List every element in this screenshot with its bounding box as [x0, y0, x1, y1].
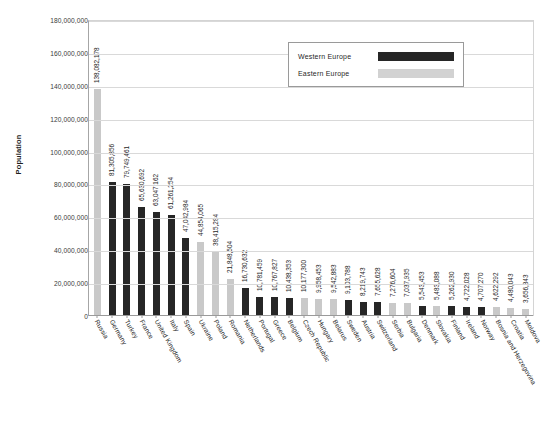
- bar[interactable]: [197, 242, 204, 316]
- bar-value-label: 16,730,632: [241, 250, 248, 282]
- bar-value-label: 8,219,743: [359, 267, 366, 295]
- bar-value-label: 61,261,254: [167, 177, 174, 209]
- category-slot: Norway: [475, 318, 490, 430]
- bar-slot: 79,749,461: [120, 21, 135, 315]
- category-slot: Russia: [89, 318, 104, 430]
- category-slot: Serbia: [386, 318, 401, 430]
- category-slot: Moldova: [519, 318, 534, 430]
- legend-swatch-eastern-europe: [378, 69, 454, 78]
- bar[interactable]: [138, 207, 145, 315]
- bar[interactable]: [493, 307, 500, 315]
- bar-value-label: 10,781,459: [256, 259, 263, 291]
- y-tick-label: 120,000,000: [14, 115, 88, 122]
- category-slot: United Kingdom: [148, 318, 163, 430]
- gridline: [89, 153, 533, 154]
- category-slot: Ukraine: [193, 318, 208, 430]
- bar[interactable]: [463, 307, 470, 315]
- bar-value-label: 9,103,788: [345, 266, 352, 294]
- category-slot: Portugal: [252, 318, 267, 430]
- bar[interactable]: [286, 298, 293, 315]
- category-slot: Turkey: [119, 318, 134, 430]
- bar-value-label: 4,480,043: [507, 273, 514, 301]
- bar[interactable]: [109, 182, 116, 315]
- legend-label-eastern-europe: Eastern Europe: [298, 70, 349, 77]
- bar[interactable]: [507, 308, 514, 315]
- bar-slot: 63,047,162: [149, 21, 164, 315]
- bar-value-label: 4,707,270: [477, 273, 484, 301]
- bar-value-label: 5,483,088: [433, 272, 440, 300]
- x-axis-label: Moldova: [524, 318, 543, 344]
- category-slot: Belgium: [282, 318, 297, 430]
- bar[interactable]: [330, 299, 337, 315]
- bar[interactable]: [315, 299, 322, 315]
- legend-item-western-europe[interactable]: Western Europe: [298, 48, 454, 65]
- category-slot: Spain: [178, 318, 193, 430]
- bar-value-label: 3,656,843: [522, 275, 529, 303]
- bar[interactable]: [271, 297, 278, 315]
- bar[interactable]: [168, 215, 175, 315]
- category-slot: Croatia: [504, 318, 519, 430]
- chart-legend: Western Europe Eastern Europe: [288, 42, 464, 87]
- bar-slot: 4,707,270: [474, 21, 489, 315]
- bar[interactable]: [374, 302, 381, 315]
- category-slot: Bulgaria: [400, 318, 415, 430]
- y-tick-label: 140,000,000: [14, 82, 88, 89]
- bar-slot: 10,767,827: [267, 21, 282, 315]
- bar-value-label: 5,543,453: [418, 271, 425, 299]
- bar[interactable]: [478, 307, 485, 315]
- bar-value-label: 5,262,930: [448, 272, 455, 300]
- bar-slot: 10,781,459: [252, 21, 267, 315]
- category-slot: Switzerland: [371, 318, 386, 430]
- gridline: [89, 21, 533, 22]
- y-tick-label: 160,000,000: [14, 49, 88, 56]
- category-slot: Slovakia: [430, 318, 445, 430]
- bar-slot: 4,480,043: [503, 21, 518, 315]
- bar-value-label: 7,655,628: [374, 268, 381, 296]
- gridline: [89, 218, 533, 219]
- bar-slot: 3,656,843: [518, 21, 533, 315]
- category-slot: Bosnia and Herzegovina: [489, 318, 504, 430]
- bar-value-label: 9,542,883: [330, 265, 337, 293]
- bar[interactable]: [345, 300, 352, 315]
- bar[interactable]: [182, 238, 189, 315]
- x-axis-category-labels: RussiaGermanyTurkeyFranceUnited KingdomI…: [89, 318, 534, 430]
- legend-label-western-europe: Western Europe: [298, 53, 351, 60]
- category-slot: Italy: [163, 318, 178, 430]
- category-slot: Sweden: [341, 318, 356, 430]
- bar[interactable]: [301, 298, 308, 315]
- bar-value-label: 63,047,162: [153, 174, 160, 206]
- bar-value-label: 47,042,984: [182, 200, 189, 232]
- bar-slot: 4,622,292: [489, 21, 504, 315]
- y-tick-label: 60,000,000: [14, 214, 88, 221]
- gridline: [89, 251, 533, 252]
- bar-value-label: 138,082,178: [94, 47, 101, 83]
- bar-value-label: 4,722,028: [463, 273, 470, 301]
- category-slot: Romania: [222, 318, 237, 430]
- bar[interactable]: [94, 89, 101, 315]
- bar[interactable]: [153, 212, 160, 315]
- bar-value-label: 21,848,504: [226, 241, 233, 273]
- bar[interactable]: [448, 306, 455, 315]
- bar-slot: 44,854,065: [193, 21, 208, 315]
- y-tick-label: 40,000,000: [14, 247, 88, 254]
- bar-value-label: 81,305,856: [108, 144, 115, 176]
- bar-slot: 65,630,692: [134, 21, 149, 315]
- bar[interactable]: [389, 303, 396, 315]
- bar-slot: 16,730,632: [238, 21, 253, 315]
- category-slot: France: [133, 318, 148, 430]
- bar-value-label: 10,438,353: [286, 260, 293, 292]
- bar-slot: 38,415,284: [208, 21, 223, 315]
- y-axis-tick-labels: 180,000,000160,000,000140,000,000120,000…: [8, 0, 88, 433]
- category-slot: Austria: [356, 318, 371, 430]
- bar[interactable]: [419, 306, 426, 315]
- category-slot: Czech Republic: [297, 318, 312, 430]
- bar[interactable]: [256, 297, 263, 315]
- bar[interactable]: [242, 288, 249, 315]
- bar[interactable]: [404, 303, 411, 315]
- bar[interactable]: [360, 302, 367, 315]
- legend-item-eastern-europe[interactable]: Eastern Europe: [298, 65, 454, 82]
- bar-value-label: 4,622,292: [492, 273, 499, 301]
- bar[interactable]: [123, 184, 130, 315]
- bar[interactable]: [433, 306, 440, 315]
- y-tick-label: 100,000,000: [14, 148, 88, 155]
